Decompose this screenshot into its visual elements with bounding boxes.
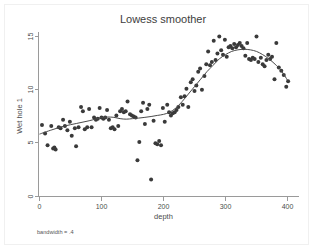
x-tick-marks	[40, 197, 288, 201]
x-tick-label-400: 400	[282, 203, 294, 210]
data-point	[245, 41, 249, 45]
data-point	[219, 48, 223, 52]
data-point	[68, 120, 72, 124]
data-point	[149, 177, 153, 181]
data-point	[147, 103, 151, 107]
data-point	[193, 89, 197, 93]
data-point	[217, 35, 221, 39]
data-point	[191, 77, 195, 81]
data-point	[70, 134, 74, 138]
data-point	[204, 62, 208, 66]
data-point	[263, 64, 267, 68]
data-point	[266, 53, 270, 57]
data-point	[79, 105, 83, 109]
data-point	[124, 109, 128, 113]
x-tick-label-200: 200	[158, 203, 170, 210]
data-point	[107, 118, 111, 122]
data-point	[179, 95, 183, 99]
lowess-chart-figure: Lowess smoother 15 10 5 0 Wet hole 1 0 1…	[0, 0, 313, 249]
data-point	[105, 108, 109, 112]
data-point	[243, 54, 247, 58]
y-tick-marks	[35, 37, 39, 197]
data-point	[165, 103, 169, 107]
y-tick-label-0: 0	[27, 194, 34, 198]
y-axis-title: Wet hole 1	[15, 98, 24, 134]
data-point	[145, 107, 149, 111]
data-point	[81, 109, 85, 113]
y-tick-label-15: 15	[27, 33, 34, 41]
data-point	[46, 143, 50, 147]
scatter-points-layer	[40, 35, 290, 182]
data-point	[61, 118, 65, 122]
bandwidth-note: bandwidth = .4	[37, 229, 74, 235]
data-point	[139, 109, 143, 113]
data-point	[65, 128, 69, 132]
chart-canvas: Lowess smoother 15 10 5 0 Wet hole 1 0 1…	[0, 0, 313, 249]
data-point	[270, 55, 274, 59]
data-point	[200, 88, 204, 92]
x-tick-label-100: 100	[96, 203, 108, 210]
data-point	[73, 126, 77, 130]
data-point	[255, 35, 259, 39]
data-point	[126, 100, 130, 104]
x-axis-title: depth	[154, 212, 173, 221]
data-point	[113, 127, 117, 131]
data-point	[184, 87, 188, 91]
data-point	[87, 107, 91, 111]
data-point	[40, 123, 44, 127]
data-point	[253, 57, 257, 61]
data-point	[206, 49, 210, 53]
data-point	[49, 124, 53, 128]
data-point	[186, 105, 190, 109]
data-point	[137, 140, 141, 144]
data-point	[85, 125, 89, 129]
x-tick-label-0: 0	[38, 203, 42, 210]
data-point	[90, 125, 94, 129]
data-point	[143, 122, 147, 126]
data-point	[225, 55, 229, 59]
data-point	[54, 148, 58, 152]
data-point	[161, 106, 165, 110]
data-point	[74, 144, 78, 148]
y-tick-label-5: 5	[27, 140, 34, 144]
data-point	[259, 56, 263, 60]
data-point	[212, 39, 216, 43]
data-point	[157, 139, 161, 143]
data-point	[274, 41, 278, 45]
data-point	[181, 103, 185, 107]
data-point	[116, 124, 120, 128]
data-point	[198, 67, 202, 71]
chart-title: Lowess smoother	[120, 13, 207, 25]
data-point	[230, 46, 234, 50]
data-point	[77, 125, 81, 129]
y-tick-label-10: 10	[27, 86, 34, 94]
data-point	[256, 60, 260, 64]
x-tick-label-300: 300	[220, 203, 232, 210]
data-point	[135, 158, 139, 162]
data-point	[163, 120, 167, 124]
data-point	[141, 101, 145, 105]
data-point	[114, 113, 118, 117]
data-point	[215, 52, 219, 56]
data-point	[159, 143, 163, 147]
data-point	[223, 38, 227, 42]
data-point	[272, 77, 276, 81]
data-point	[210, 60, 214, 64]
data-point	[98, 106, 102, 110]
data-point	[284, 85, 288, 89]
data-point	[152, 119, 156, 123]
